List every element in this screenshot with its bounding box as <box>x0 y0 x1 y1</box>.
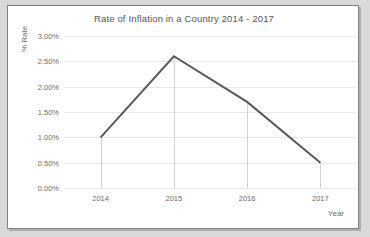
x-axis-tick-label: 2015 <box>166 194 183 203</box>
y-axis-title: % Rate <box>20 26 29 52</box>
data-series-line <box>64 36 357 188</box>
y-axis-tick-label: 1.00% <box>38 133 59 142</box>
y-axis-tick-label: 2.00% <box>38 82 59 91</box>
x-axis-tick-label: 2014 <box>92 194 109 203</box>
chart-title: Rate of Inflation in a Country 2014 - 20… <box>8 13 360 24</box>
x-axis-tick-label: 2016 <box>239 194 256 203</box>
y-axis-tick-label: 0.50% <box>38 158 59 167</box>
inflation-line <box>101 56 321 162</box>
chart-outer-frame: Rate of Inflation in a Country 2014 - 20… <box>0 0 370 237</box>
plot-area: 0.00%0.50%1.00%1.50%2.00%2.50%3.00% 2014… <box>64 36 357 188</box>
y-axis-tick-label: 2.50% <box>38 57 59 66</box>
y-axis-tick-label: 3.00% <box>38 32 59 41</box>
y-axis-tick-label: 1.50% <box>38 108 59 117</box>
x-axis-tick-label: 2017 <box>312 194 329 203</box>
chart-card: Rate of Inflation in a Country 2014 - 20… <box>7 5 359 229</box>
x-axis-title: Year <box>328 209 344 218</box>
gridline <box>64 188 357 189</box>
y-axis-tick-label: 0.00% <box>38 184 59 193</box>
